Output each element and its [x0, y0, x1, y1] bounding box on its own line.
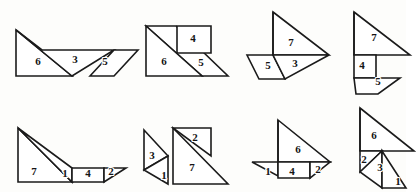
piece-label: 3: [72, 53, 78, 65]
tangram-figure-1: 6 3 5: [12, 24, 152, 94]
piece-label: 5: [198, 56, 204, 68]
tangram-figure-2: 6 4 5: [140, 18, 240, 90]
tangram-figure-3: 7 5 3: [243, 8, 343, 92]
piece-label: 2: [315, 163, 321, 175]
tangram-piece: [354, 55, 376, 78]
piece-label: 5: [375, 75, 381, 87]
piece-label: 7: [371, 31, 377, 43]
tangram-figure-8: 6 2 3 1: [344, 104, 419, 196]
piece-label: 4: [359, 59, 365, 71]
tangram-piece: [273, 12, 329, 55]
tangram-figure-5: 7 1 4 2: [12, 120, 137, 192]
piece-label: 2: [108, 165, 114, 177]
piece-label: 4: [289, 165, 295, 177]
piece-label: 5: [265, 59, 271, 71]
piece-label: 1: [265, 165, 271, 177]
piece-label: 3: [292, 57, 298, 69]
tangram-figure-4: 7 4 5: [346, 8, 416, 100]
tangram-figure-6: 3 1 2 7: [132, 112, 242, 192]
piece-label: 2: [192, 131, 198, 143]
piece-label: 6: [295, 143, 301, 155]
piece-label: 1: [161, 169, 167, 181]
piece-label: 6: [371, 129, 377, 141]
piece-label: 1: [62, 167, 68, 179]
tangram-piece: [382, 151, 406, 188]
piece-label: 7: [189, 161, 195, 173]
piece-label: 2: [361, 153, 367, 165]
tangram-figure-7: 6 1 4 2: [244, 112, 344, 192]
piece-label: 4: [85, 167, 91, 179]
tangram-piece: [354, 12, 410, 55]
piece-label: 4: [190, 32, 196, 44]
tangram-piece: [278, 120, 330, 162]
tangram-piece: [360, 108, 414, 151]
piece-label: 3: [377, 161, 383, 173]
piece-label: 1: [395, 175, 401, 187]
piece-label: 7: [288, 36, 294, 48]
piece-label: 6: [35, 55, 41, 67]
piece-label: 5: [102, 55, 108, 67]
piece-label: 7: [31, 165, 37, 177]
piece-label: 6: [161, 55, 167, 67]
piece-label: 3: [149, 149, 155, 161]
